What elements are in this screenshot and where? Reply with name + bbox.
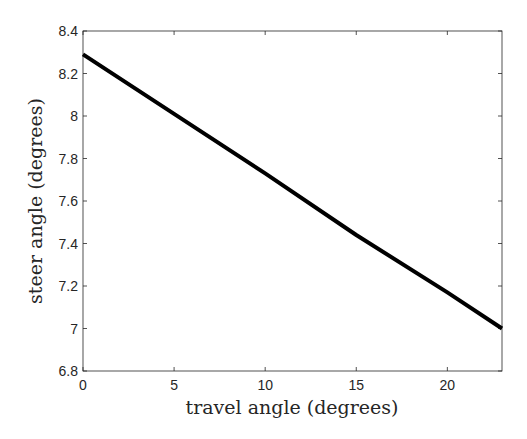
x-tick-label: 15 (348, 377, 364, 393)
plot-area: 051015206.877.27.47.67.888.28.4 (59, 23, 502, 393)
y-tick-label: 7 (70, 321, 78, 337)
y-tick-label: 7.8 (59, 151, 79, 167)
axes-box (83, 31, 502, 371)
x-axis-label: travel angle (degrees) (186, 396, 399, 418)
x-tick-label: 5 (170, 377, 178, 393)
y-tick-label: 7.4 (59, 236, 79, 252)
data-line (83, 54, 502, 328)
y-tick-label: 8.2 (59, 66, 79, 82)
line-chart: 051015206.877.27.47.67.888.28.4 travel a… (0, 0, 527, 439)
y-tick-label: 6.8 (59, 363, 79, 379)
x-tick-label: 0 (79, 377, 87, 393)
y-tick-label: 8.4 (59, 23, 79, 39)
y-tick-label: 7.6 (59, 193, 79, 209)
y-axis-label: steer angle (degrees) (24, 98, 46, 304)
y-tick-label: 7.2 (59, 278, 79, 294)
y-tick-label: 8 (70, 108, 78, 124)
x-tick-label: 20 (440, 377, 456, 393)
x-tick-label: 10 (257, 377, 273, 393)
